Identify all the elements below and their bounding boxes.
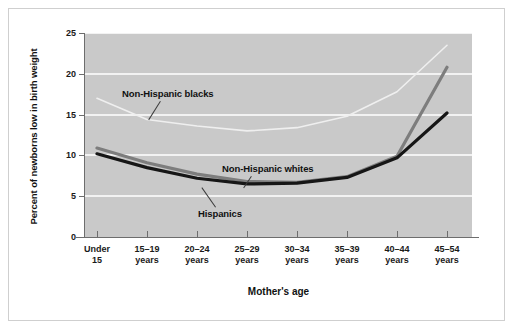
y-axis-tick-label: 20 [52,70,76,79]
series-label: Non-Hispanic whites [222,163,314,174]
x-axis-line [78,237,479,238]
plot-area [85,33,472,237]
y-axis-tick-labels: 0510152025 [48,0,76,329]
y-axis-tick [79,33,84,34]
x-axis-tick-label-line: years [417,255,477,266]
x-axis-tick [147,231,148,237]
series-lines [85,33,472,237]
figure-root: Percent of newborns low in birth weight … [0,0,513,329]
x-axis-tick-label-line: 45–54 [417,244,477,255]
y-axis-tick-label: 15 [52,111,76,120]
y-axis-title: Percent of newborns low in birth weight [28,42,39,232]
x-axis-tick [447,231,448,237]
series-label: Hispanics [198,208,242,219]
y-axis-tick-label: 25 [52,29,76,38]
y-axis-tick [79,115,84,116]
series-label: Non-Hispanic blacks [122,88,214,99]
y-axis-tick [76,237,84,238]
y-axis-tick [79,155,84,156]
x-axis-tick [397,231,398,237]
y-axis-tick [79,74,84,75]
x-axis-tick-label: 45–54years [417,244,477,266]
x-axis-tick [297,231,298,237]
y-axis-tick-label: 10 [52,151,76,160]
x-axis-tick [347,231,348,237]
y-axis-line [84,33,85,238]
y-axis-tick-label: 0 [52,233,76,242]
x-axis-tick [247,231,248,237]
x-axis-tick [97,231,98,237]
y-axis-tick [79,196,84,197]
x-axis-tick [197,231,198,237]
x-axis-title: Mother's age [85,286,472,297]
y-axis-tick-label: 5 [52,192,76,201]
